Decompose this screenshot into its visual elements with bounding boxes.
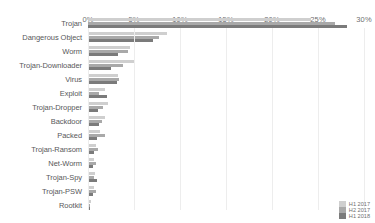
gridline xyxy=(318,28,319,210)
category-label: Exploit xyxy=(0,89,82,98)
legend-label-group: H1 2017H2 2017H1 2018 xyxy=(349,201,370,219)
gridline xyxy=(134,28,135,210)
category-label: Net-Worm xyxy=(0,159,82,168)
bar xyxy=(88,172,95,175)
legend-label: H1 2018 xyxy=(349,213,370,219)
bar xyxy=(88,64,123,67)
gridline xyxy=(88,28,89,210)
category-label: Virus xyxy=(0,75,82,84)
bar xyxy=(88,78,119,81)
category-label: Worm xyxy=(0,47,82,56)
bar-group xyxy=(88,14,364,28)
category-label: Trojan-Ransom xyxy=(0,145,82,154)
category-label: Packed xyxy=(0,131,82,140)
category-label: Trojan-Downloader xyxy=(0,61,82,70)
bar xyxy=(88,120,102,123)
category-label: Rootkit xyxy=(0,201,82,210)
bar xyxy=(88,60,134,63)
bar xyxy=(88,148,98,151)
gridline xyxy=(180,28,181,210)
legend-swatch-group xyxy=(339,201,346,219)
category-label: Trojan-PSW xyxy=(0,187,82,196)
plot-area: 0%5%10%15%20%25%30% xyxy=(88,14,364,210)
bar xyxy=(88,162,96,165)
bar xyxy=(88,88,105,91)
bar xyxy=(88,92,99,95)
category-label: Trojan-Spy xyxy=(0,173,82,182)
category-label: Trojan xyxy=(0,19,82,28)
bar xyxy=(88,106,103,109)
category-label: Backdoor xyxy=(0,117,82,126)
category-label-column: TrojanDangerous ObjectWormTrojan-Downloa… xyxy=(0,14,85,210)
bar xyxy=(88,144,96,147)
legend: H1 2017H2 2017H1 2018 xyxy=(339,201,370,219)
category-label: Trojan-Dropper xyxy=(0,103,82,112)
gridline xyxy=(272,28,273,210)
bar xyxy=(88,190,96,193)
bar xyxy=(88,74,118,77)
bar xyxy=(88,32,167,35)
gridline xyxy=(226,28,227,210)
bar xyxy=(88,18,311,21)
bar xyxy=(88,22,335,25)
bar xyxy=(88,36,159,39)
bar xyxy=(88,134,105,137)
category-label: Dangerous Object xyxy=(0,33,82,42)
legend-swatch xyxy=(339,213,346,219)
bar xyxy=(88,50,128,53)
malware-distribution-chart: TrojanDangerous ObjectWormTrojan-Downloa… xyxy=(0,0,375,223)
bar xyxy=(88,102,108,105)
bar xyxy=(88,130,100,133)
gridline xyxy=(364,28,365,210)
bar xyxy=(88,116,105,119)
bar xyxy=(88,46,130,49)
